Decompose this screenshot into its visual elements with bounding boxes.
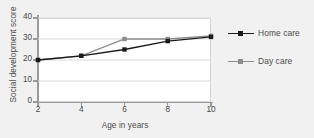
x-axis-title: Age in years [38, 121, 212, 130]
data-point-home-care [36, 58, 40, 62]
x-tick-label: 2 [28, 106, 48, 114]
y-tick-label: 40 [6, 13, 32, 21]
plot-canvas [38, 18, 211, 102]
x-tick-label: 6 [115, 106, 135, 114]
data-point-home-care [122, 47, 126, 51]
line-chart: Social development score Age in years 01… [0, 0, 314, 138]
legend-item-day-care[interactable]: Day care [228, 56, 292, 66]
data-point-day-care [122, 37, 126, 41]
legend-swatch-day-care [228, 57, 254, 66]
legend-label-day-care: Day care [258, 56, 292, 66]
legend-item-home-care[interactable]: Home care [228, 28, 300, 38]
x-tick-label: 4 [71, 106, 91, 114]
x-tick-label: 10 [201, 106, 221, 114]
legend-label-home-care: Home care [258, 28, 300, 38]
y-tick-label: 0 [6, 97, 32, 105]
y-tick-label: 20 [6, 55, 32, 63]
x-tick-label: 8 [158, 106, 178, 114]
legend-swatch-home-care [228, 29, 254, 38]
data-point-home-care [209, 35, 213, 39]
data-point-home-care [79, 54, 83, 58]
y-tick-label: 30 [6, 34, 32, 42]
data-point-home-care [166, 39, 170, 43]
y-tick-label: 10 [6, 76, 32, 84]
